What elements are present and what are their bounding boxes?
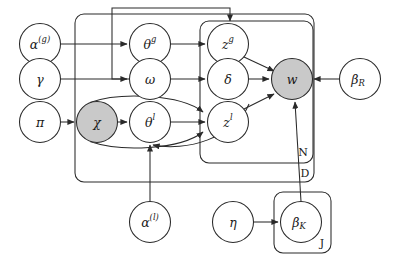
node-omega[interactable]: ω [130, 59, 171, 100]
node-gamma[interactable]: γ [20, 59, 61, 100]
plate-J-label: J [319, 237, 324, 250]
node-delta-label: δ [224, 72, 232, 87]
node-z-l[interactable]: zl [208, 102, 249, 143]
node-beta-R[interactable]: βR [340, 59, 381, 100]
node-pi-label: π [35, 115, 45, 130]
node-w-label: w [287, 72, 298, 87]
node-eta[interactable]: η [213, 202, 254, 243]
node-theta-l[interactable]: θl [130, 102, 171, 143]
node-omega-label: ω [145, 72, 155, 87]
node-chi-label: χ [92, 115, 102, 130]
node-beta-K[interactable]: βK [281, 202, 322, 243]
node-w[interactable]: w [272, 59, 313, 100]
node-pi[interactable]: π [20, 102, 61, 143]
graphical-model-diagram: D N J [0, 0, 397, 263]
node-chi[interactable]: χ [77, 102, 118, 143]
plate-N-label: N [298, 146, 308, 159]
edge-z-l-to-w [244, 94, 274, 109]
edge-z-g-to-w [244, 57, 274, 71]
node-alpha-l-circle[interactable] [130, 202, 171, 243]
plate-D-label: D [301, 167, 310, 180]
node-gamma-label: γ [36, 72, 44, 87]
node-delta[interactable]: δ [208, 59, 249, 100]
node-alpha-l[interactable]: α(l) [130, 202, 171, 243]
node-eta-label: η [229, 215, 237, 230]
figure-canvas: D N J [0, 0, 397, 263]
